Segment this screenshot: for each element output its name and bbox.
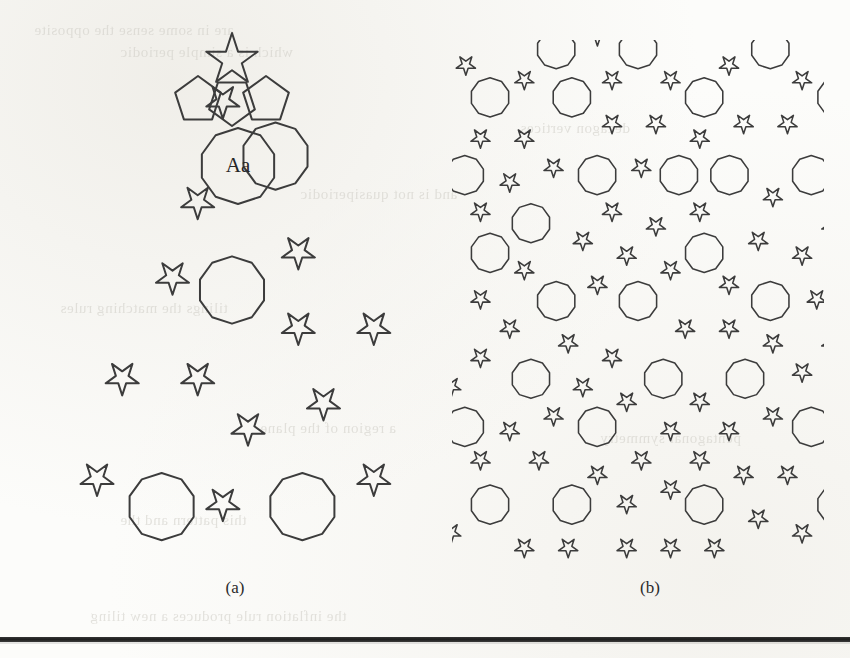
tile-star <box>471 130 490 148</box>
tile-star <box>106 364 139 395</box>
tile-star <box>452 379 461 397</box>
tile-star <box>822 218 824 236</box>
tile-deca <box>793 407 824 446</box>
tile-deca <box>645 359 682 398</box>
tile-deca <box>270 473 334 540</box>
bleedthrough-line: the inflation rule produces a new tiling <box>90 608 346 625</box>
tile-star <box>734 466 753 484</box>
tile-deca <box>579 156 616 195</box>
tile-star <box>81 465 114 496</box>
tile-deca <box>686 78 723 117</box>
tile-star <box>515 539 534 557</box>
tile-star <box>617 539 636 557</box>
tile-star <box>661 262 680 280</box>
tile-star <box>617 247 636 265</box>
tile-star <box>588 466 607 484</box>
tile-star <box>544 159 563 177</box>
tile-star <box>661 422 680 440</box>
tile-star <box>792 525 811 543</box>
tile-deca <box>553 78 590 117</box>
panel-a-svg: Aa <box>42 16 422 564</box>
tile-star <box>471 203 490 221</box>
tile-star <box>156 263 189 294</box>
tile-star <box>307 389 340 420</box>
tile-deca <box>686 233 723 272</box>
tile-deca <box>686 485 723 524</box>
tile-star <box>515 130 534 148</box>
tile-star <box>661 481 680 499</box>
tile-deca <box>512 359 549 398</box>
tile-star <box>763 335 782 353</box>
tile-star <box>661 539 680 557</box>
panel-a-tiling: Aa <box>42 16 422 564</box>
tile-star <box>749 510 768 528</box>
tile-deca <box>452 407 483 446</box>
tile-star <box>588 276 607 294</box>
tile-star <box>719 276 738 294</box>
panel-b-tiling <box>452 40 824 562</box>
tile-deca <box>553 485 590 524</box>
tile-deca <box>471 233 508 272</box>
tile-star <box>792 364 811 382</box>
tile-star <box>617 393 636 411</box>
tile-star <box>500 422 519 440</box>
tile-deca <box>726 359 763 398</box>
tile-star <box>181 188 214 219</box>
tile-star <box>792 72 811 90</box>
tile-star <box>471 452 490 470</box>
tile-star <box>559 335 578 353</box>
tile-star <box>807 291 824 309</box>
tile-star <box>690 393 709 411</box>
tile-deca <box>752 281 789 320</box>
tile-star <box>500 320 519 338</box>
tile-star <box>719 422 738 440</box>
tile-star <box>676 320 695 338</box>
tile-star <box>690 452 709 470</box>
caption-a: (a) <box>175 578 295 598</box>
tile-deca <box>452 156 483 195</box>
tile-star <box>231 414 264 445</box>
tile-deca <box>200 256 264 323</box>
tile-star <box>602 349 621 367</box>
tile-star <box>357 314 390 345</box>
tile-star <box>661 72 680 90</box>
tile-star <box>778 466 797 484</box>
tile-star <box>763 408 782 426</box>
decagon-label-aa: Aa <box>226 153 251 177</box>
tile-star <box>822 335 824 353</box>
tile-star <box>705 539 724 557</box>
tile-star <box>544 408 563 426</box>
tile-deca <box>579 407 616 446</box>
tile-deca <box>711 156 748 195</box>
tile-deca <box>471 485 508 524</box>
tile-deca <box>471 78 508 117</box>
tile-star <box>734 115 753 133</box>
tile-star <box>632 159 651 177</box>
tile-star <box>792 247 811 265</box>
tile-star <box>206 490 239 521</box>
tile-star <box>719 320 738 338</box>
tile-deca <box>619 281 656 320</box>
figure-container: Aa <box>0 0 850 600</box>
tile-star <box>456 57 475 75</box>
tile-deca <box>538 40 575 69</box>
tile-deca <box>793 156 824 195</box>
tile-deca <box>660 156 697 195</box>
tile-star <box>573 379 592 397</box>
tile-deca <box>752 40 789 69</box>
tile-star <box>282 238 315 269</box>
tile-star <box>357 465 390 496</box>
tile-deca <box>538 281 575 320</box>
tile-star <box>181 364 214 395</box>
tile-star-apex <box>206 33 257 82</box>
tile-star <box>471 291 490 309</box>
tile-star <box>471 349 490 367</box>
tile-star <box>617 496 636 514</box>
tile-star <box>719 57 738 75</box>
tile-star <box>500 174 519 192</box>
caption-b: (b) <box>590 578 710 598</box>
tile-star <box>646 115 665 133</box>
tile-deca <box>619 40 656 69</box>
tile-star <box>632 452 651 470</box>
tile-star <box>690 130 709 148</box>
